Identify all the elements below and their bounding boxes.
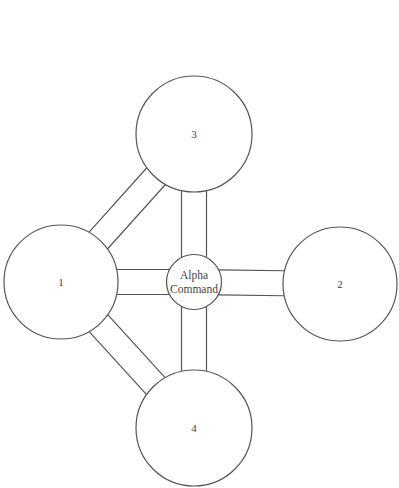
node-4: 4 [136,370,252,486]
network-diagram: 1 2 3 4 Alpha Command [0,0,399,488]
node-2-label: 2 [337,278,343,290]
hub-label-line-1: Alpha [180,269,208,282]
hub-alpha-command: Alpha Command [167,255,222,310]
corridor-n4-alpha [182,306,207,371]
corridor-n1-alpha [117,270,170,295]
node-3: 3 [136,76,252,192]
corridor-edge [218,295,284,296]
hub-label-line-2: Command [170,283,218,295]
corridor-edge [108,315,165,378]
node-1: 1 [4,225,118,339]
corridor-n1-n4 [89,315,165,395]
corridor-n3-alpha [182,191,207,258]
corridor-edge [89,332,146,395]
node-1-label: 1 [58,276,64,288]
nodes: 1 2 3 4 Alpha Command [4,76,397,486]
corridor-n2-alpha [218,270,284,296]
corridor-edge [107,184,165,249]
corridor-edge [219,270,285,271]
node-3-label: 3 [191,128,197,140]
node-2: 2 [283,227,397,341]
corridor-n1-n3 [89,168,166,249]
hub-circle [167,255,222,310]
corridor-edge [89,168,147,233]
node-4-label: 4 [191,422,197,434]
